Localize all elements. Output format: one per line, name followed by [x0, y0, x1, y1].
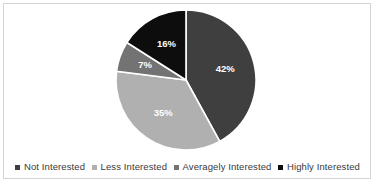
legend-item[interactable]: Averagely Interested: [174, 162, 272, 172]
legend-swatch-icon: [278, 165, 283, 170]
legend-swatch-icon: [174, 165, 179, 170]
legend-item-label: Not Interested: [24, 162, 85, 172]
pie-chart-plot-area: 42%35%7%16%: [4, 4, 370, 156]
pie-chart-svg: 42%35%7%16%: [4, 4, 370, 156]
chart-legend: Not InterestedLess InterestedAveragely I…: [4, 156, 370, 178]
legend-item[interactable]: Less Interested: [92, 162, 167, 172]
pie-data-label: 16%: [157, 38, 177, 49]
caption-clipped-sliver: [4, 186, 372, 194]
pie-data-label: 35%: [154, 107, 174, 118]
legend-item[interactable]: Highly Interested: [278, 162, 360, 172]
legend-item[interactable]: Not Interested: [15, 162, 85, 172]
pie-slice-group: [116, 10, 256, 150]
pie-data-label: 7%: [138, 59, 152, 70]
legend-item-label: Less Interested: [101, 162, 167, 172]
legend-swatch-icon: [92, 165, 97, 170]
chart-frame: 42%35%7%16% Not InterestedLess Intereste…: [3, 3, 371, 179]
legend-swatch-icon: [15, 165, 20, 170]
legend-item-label: Highly Interested: [287, 162, 360, 172]
pie-data-label: 42%: [216, 63, 236, 74]
legend-item-label: Averagely Interested: [183, 162, 272, 172]
